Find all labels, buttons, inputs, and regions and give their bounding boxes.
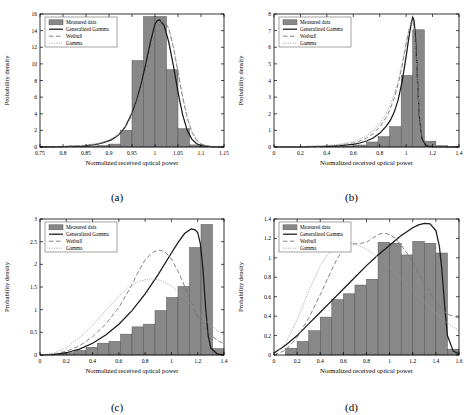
histogram-bar — [309, 331, 321, 355]
histogram-bar — [413, 241, 425, 355]
histogram-bar — [132, 327, 144, 355]
y-tick-label: 8 — [34, 78, 37, 84]
histogram-bars — [286, 241, 459, 355]
x-tick-label: 1.2 — [429, 150, 436, 156]
x-tick-label: 0 — [273, 358, 276, 364]
histogram-bar — [297, 341, 309, 355]
panel-c: 00.20.40.60.811.21.4Normalized received … — [0, 205, 234, 415]
panel-b: 00.20.40.60.811.21.4Normalized received … — [234, 0, 469, 205]
panel-caption-a: (a) — [0, 191, 234, 203]
histogram-bar — [75, 350, 87, 355]
panel-a: 0.750.80.850.90.9511.051.11.15Normalized… — [0, 0, 234, 205]
legend-swatch-measured-data — [49, 225, 63, 230]
x-tick-label: 0 — [273, 150, 276, 156]
histogram-bar — [320, 317, 332, 355]
chart-svg-a: 0.750.80.850.90.9511.051.11.15Normalized… — [0, 0, 234, 185]
y-tick-label: 0 — [34, 144, 37, 150]
legend-label: Weibull — [66, 33, 83, 39]
chart-svg-b: 00.20.40.60.811.21.4Normalized received … — [234, 0, 469, 185]
x-tick-label: 1 — [170, 358, 173, 364]
x-axis-label: Normalized received optical power — [86, 159, 180, 166]
legend-label: Weibull — [66, 238, 83, 244]
histogram-bar — [144, 324, 156, 355]
y-axis-label: Probability density — [3, 55, 10, 106]
y-tick-label: 1.2 — [264, 235, 271, 241]
x-tick-label: 1 — [405, 150, 408, 156]
x-axis-label: Normalized received optical power — [86, 367, 180, 374]
histogram-bar — [401, 255, 413, 355]
histogram-bar — [190, 248, 202, 355]
x-tick-label: 0.8 — [363, 358, 370, 364]
histogram-bar — [155, 311, 167, 355]
legend-label: Gamma — [300, 245, 317, 251]
y-tick-label: 2.5 — [30, 239, 37, 245]
x-tick-label: 0.6 — [340, 358, 347, 364]
y-tick-label: 3 — [268, 94, 271, 100]
y-tick-label: 14 — [31, 28, 37, 34]
y-axis-label: Probability density — [3, 261, 10, 312]
y-tick-label: 1 — [268, 255, 271, 261]
histogram-bar — [343, 294, 355, 355]
y-tick-label: 1.5 — [30, 284, 37, 290]
histogram-bar — [413, 30, 425, 147]
plot-area: 00.20.40.60.811.21.41.6Normalized receiv… — [237, 216, 463, 374]
histogram-bar — [121, 130, 133, 147]
y-axis-label: Probability density — [237, 261, 244, 312]
y-tick-label: 5 — [268, 61, 271, 67]
y-tick-label: 1.4 — [264, 216, 271, 222]
panel-caption-c: (c) — [0, 401, 234, 413]
y-tick-label: 0 — [34, 352, 37, 358]
histogram-bar — [86, 347, 98, 355]
y-tick-label: 3 — [34, 216, 37, 222]
legend-swatch-measured-data — [283, 20, 297, 25]
y-tick-label: 0 — [268, 352, 271, 358]
y-tick-label: 0.5 — [30, 329, 37, 335]
x-tick-label: 0.6 — [115, 358, 122, 364]
histogram-bar — [424, 243, 436, 355]
histogram-bar — [167, 297, 179, 355]
plot-area: 0.750.80.850.90.9511.051.11.15Normalized… — [3, 11, 229, 166]
legend-label: Generalized Gamma — [300, 26, 343, 32]
chart-svg-d: 00.20.40.60.811.21.41.6Normalized receiv… — [234, 205, 469, 393]
legend-label: Measured data — [300, 19, 331, 25]
legend-label: Generalized Gamma — [300, 231, 343, 237]
figure-panel-grid: 0.750.80.850.90.9511.051.11.15Normalized… — [0, 0, 469, 415]
legend-label: Gamma — [300, 40, 317, 46]
y-tick-label: 10 — [31, 61, 37, 67]
plot-area: 00.20.40.60.811.21.4Normalized received … — [237, 11, 463, 166]
y-tick-label: 12 — [31, 44, 37, 50]
x-axis-label: Normalized received optical power — [320, 159, 414, 166]
x-tick-label: 0.2 — [294, 358, 301, 364]
x-tick-label: 0.95 — [127, 150, 137, 156]
panel-d: 00.20.40.60.811.21.41.6Normalized receiv… — [234, 205, 469, 415]
histogram-bar — [155, 16, 167, 147]
y-tick-label: 6 — [268, 44, 271, 50]
y-tick-label: 4 — [268, 78, 271, 84]
x-tick-label: 1.15 — [219, 150, 229, 156]
y-tick-label: 0.8 — [264, 274, 271, 280]
histogram-bar — [367, 279, 379, 355]
x-tick-label: 0.75 — [35, 150, 45, 156]
x-tick-label: 0.8 — [60, 150, 67, 156]
panel-cell-d: 00.20.40.60.811.21.41.6Normalized receiv… — [234, 205, 469, 415]
legend-label: Measured data — [300, 224, 331, 230]
y-tick-label: 16 — [31, 11, 37, 17]
x-tick-label: 0.2 — [297, 150, 304, 156]
y-tick-label: 7 — [268, 28, 271, 34]
x-tick-label: 0.8 — [376, 150, 383, 156]
legend-swatch-measured-data — [283, 225, 297, 230]
histogram-bar — [98, 343, 110, 355]
histogram-bar — [401, 76, 413, 147]
histogram-bar — [132, 61, 144, 147]
histogram-bar — [367, 142, 379, 147]
legend: Measured dataGeneralized GammaWeibullGam… — [45, 17, 117, 47]
histogram-bar — [355, 285, 367, 355]
histogram-bar — [390, 243, 402, 355]
panel-cell-c: 00.20.40.60.811.21.4Normalized received … — [0, 205, 234, 415]
x-tick-label: 1.4 — [456, 150, 463, 156]
x-tick-label: 1 — [388, 358, 391, 364]
legend: Measured dataGeneralized GammaWeibullGam… — [279, 17, 351, 47]
x-tick-label: 1.05 — [173, 150, 183, 156]
x-tick-label: 1.2 — [409, 358, 416, 364]
panel-cell-a: 0.750.80.850.90.9511.051.11.15Normalized… — [0, 0, 234, 205]
